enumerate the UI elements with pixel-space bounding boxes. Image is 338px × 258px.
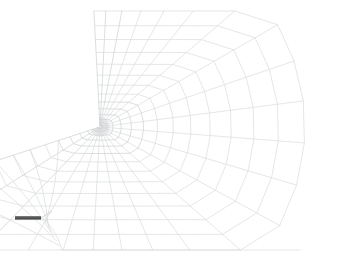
fe-mesh-canvas [0,0,338,258]
figure-root: Crack-tip focused finite element mesh [0,0,338,258]
